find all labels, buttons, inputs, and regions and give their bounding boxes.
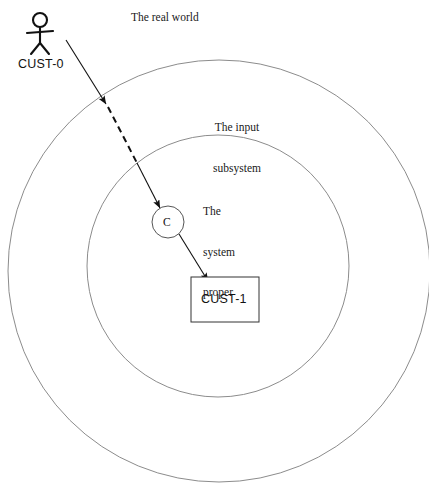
process-label-c: C [163, 216, 171, 228]
zone-label-system-proper-line1: The [203, 205, 273, 219]
diagram-canvas: The real world The input subsystem The s… [0, 0, 429, 494]
actor-stick-figure-icon [27, 13, 53, 54]
zone-label-input-subsystem-line2: subsystem [187, 162, 287, 176]
flow-arrow-actor-to-outer-boundary [66, 40, 106, 104]
entity-label-cust1: CUST-1 [201, 292, 247, 306]
actor-label-cust0: CUST-0 [18, 57, 64, 71]
zone-label-input-subsystem-line1: The input [187, 121, 287, 135]
zone-label-system-proper-line2: system [203, 246, 273, 260]
zone-label-real-world: The real world [131, 11, 199, 25]
flow-dashed-through-input-subsystem [108, 107, 137, 163]
flow-arrow-to-process-c [137, 163, 160, 208]
